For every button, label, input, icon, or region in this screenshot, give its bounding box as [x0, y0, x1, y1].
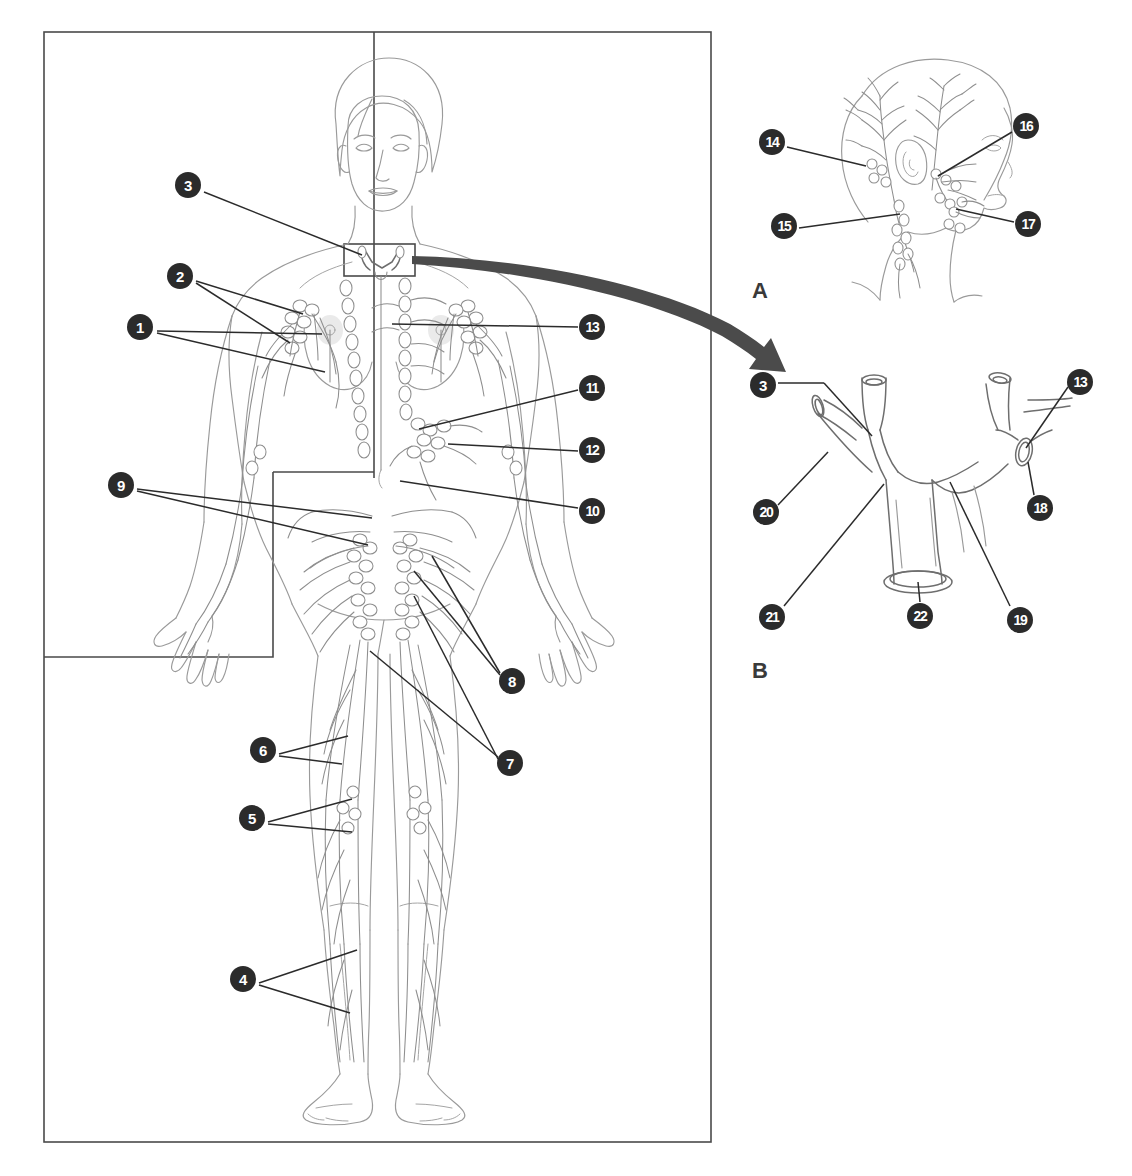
- callout-20[interactable]: 20: [753, 499, 779, 525]
- panel-letter-a: A: [752, 278, 768, 304]
- panel-letter-b: B: [752, 658, 768, 684]
- callout-12[interactable]: 12: [579, 437, 605, 463]
- callout-b-13[interactable]: 13: [1067, 369, 1093, 395]
- callout-10[interactable]: 10: [579, 498, 605, 524]
- callout-3[interactable]: 3: [175, 172, 201, 198]
- callout-1[interactable]: 1: [127, 314, 153, 340]
- callout-14[interactable]: 14: [759, 129, 785, 155]
- callout-4[interactable]: 4: [230, 966, 256, 992]
- callout-7[interactable]: 7: [497, 750, 523, 776]
- callout-21[interactable]: 21: [759, 604, 785, 630]
- leader-line-layer: [0, 0, 1132, 1176]
- callout-22[interactable]: 22: [907, 603, 933, 629]
- callout-11[interactable]: 11: [579, 375, 605, 401]
- callout-b-3[interactable]: 3: [750, 372, 776, 398]
- callout-18[interactable]: 18: [1027, 495, 1053, 521]
- callout-17[interactable]: 17: [1015, 211, 1041, 237]
- callout-9[interactable]: 9: [108, 472, 134, 498]
- callout-8[interactable]: 8: [499, 668, 525, 694]
- figure-canvas: 1 2 3 4 5 6 7 8 9 10 11 12 13 14 15 16 1…: [0, 0, 1132, 1176]
- callout-19[interactable]: 19: [1007, 607, 1033, 633]
- main-panel-leaders: [137, 192, 578, 1013]
- callout-15[interactable]: 15: [771, 213, 797, 239]
- callout-13[interactable]: 13: [579, 314, 605, 340]
- callout-6[interactable]: 6: [250, 737, 276, 763]
- panel-b-leaders: [778, 383, 1068, 606]
- callout-2[interactable]: 2: [167, 263, 193, 289]
- panel-a-leaders: [787, 132, 1014, 228]
- callout-16[interactable]: 16: [1013, 113, 1039, 139]
- callout-5[interactable]: 5: [239, 805, 265, 831]
